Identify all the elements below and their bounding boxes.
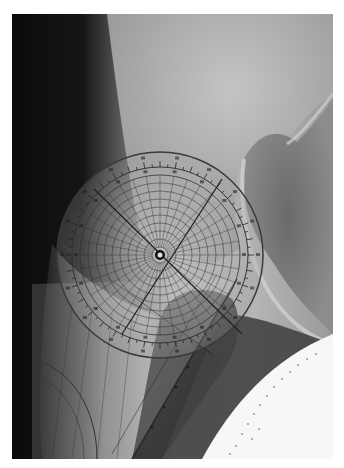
protractor-overlay: [57, 152, 263, 358]
xray-illustration: [12, 14, 333, 459]
xray-photograph: Radiograph of a hip joint with a transpa…: [12, 14, 333, 459]
